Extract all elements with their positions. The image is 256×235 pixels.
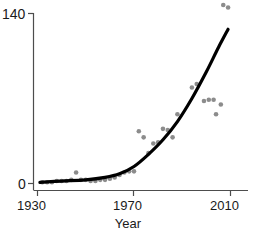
- fitted-trend-curve: [40, 29, 228, 182]
- data-point: [161, 127, 166, 132]
- data-point: [226, 5, 231, 10]
- y-axis-tick-label-0: 0: [18, 176, 26, 192]
- x-axis-tick-label-1970: 1970: [113, 198, 142, 213]
- data-point: [190, 85, 195, 90]
- data-point: [141, 135, 146, 140]
- data-point: [206, 97, 211, 102]
- x-axis-tick-label-2010: 2010: [210, 198, 239, 213]
- data-point: [211, 97, 216, 102]
- y-axis-tick-label-140: 140: [2, 6, 25, 22]
- x-axis-tick-label-1930: 1930: [17, 198, 46, 213]
- data-point: [132, 169, 137, 174]
- data-points: [40, 3, 230, 185]
- data-point: [170, 135, 175, 140]
- axes: [28, 13, 248, 196]
- data-point: [202, 99, 207, 104]
- data-point: [221, 3, 226, 8]
- scatter-chart: 140 0 1930 1970 2010 Year: [0, 0, 256, 235]
- data-point: [74, 170, 79, 175]
- data-point: [137, 129, 142, 134]
- data-point: [219, 102, 224, 107]
- data-point: [151, 141, 156, 146]
- data-point: [214, 112, 219, 117]
- x-axis-title: Year: [0, 216, 256, 231]
- data-point: [175, 112, 180, 117]
